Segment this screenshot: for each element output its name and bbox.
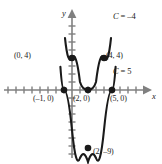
point-neg1-0 [61, 87, 68, 94]
curve-label-c-5-value: = 5 [119, 66, 132, 76]
curve-label-c-5: C = 5 [113, 67, 131, 76]
coordinate-plane-svg [0, 0, 162, 164]
point-0-4 [69, 55, 76, 62]
point-label-4-4: (4, 4) [106, 52, 123, 60]
point-2-neg9 [85, 145, 92, 152]
curve-label-c-neg4: C = –4 [113, 12, 136, 21]
point-2-0 [85, 87, 92, 94]
point-label-neg1-0: (–1, 0) [33, 95, 54, 103]
x-axis-label: x [152, 92, 156, 101]
point-label-0-4: (0, 4) [14, 52, 31, 60]
y-axis-label: y [62, 9, 66, 18]
graph-figure: y x (0, 4) (4, 4) (–1, 0) (2, 0) (5, 0) … [0, 0, 162, 164]
curve-label-c-neg4-value: = –4 [119, 11, 136, 21]
point-5-0 [109, 87, 116, 94]
point-label-2-neg9: (2, –9) [93, 148, 114, 156]
point-label-5-0: (5, 0) [110, 95, 127, 103]
point-label-2-0: (2, 0) [73, 95, 90, 103]
